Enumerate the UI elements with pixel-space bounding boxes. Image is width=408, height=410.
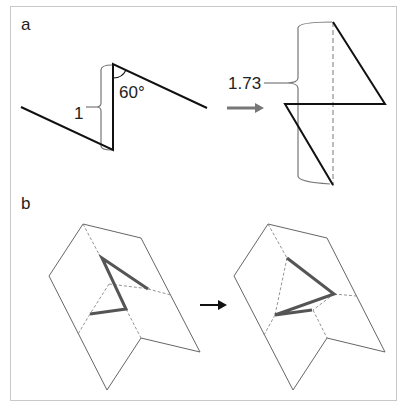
angle-label: 60° — [119, 83, 145, 102]
folded-sheet-after — [234, 224, 385, 390]
panel-b-label: b — [21, 194, 30, 213]
right-arrow-icon — [200, 300, 227, 310]
zigzag-path-after — [285, 22, 385, 185]
panel-a-label: a — [21, 15, 31, 34]
bracket-1 — [86, 65, 112, 150]
zigzag-path-before — [21, 64, 207, 150]
figure-canvas: a 1 60° 1.73 b — [0, 0, 408, 410]
right-arrow-icon — [227, 103, 264, 113]
folded-sheet-before — [49, 224, 200, 390]
length-label-1: 1 — [74, 104, 83, 123]
angle-arc-icon — [113, 70, 126, 78]
length-label-1-73: 1.73 — [228, 74, 261, 93]
